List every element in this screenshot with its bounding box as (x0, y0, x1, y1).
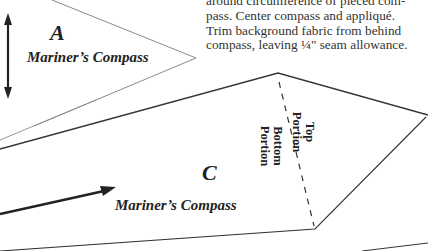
adjacent-piece-edge-bottom (362, 243, 428, 251)
instructions-text: around circumference of pieced com- pass… (206, 0, 428, 53)
instruction-line: compass, leaving ¼" seam allowance. (206, 38, 428, 53)
double-arrow-icon (4, 13, 12, 99)
piece-a-letter: A (50, 20, 65, 46)
instruction-line: pass. Center compass and appliqué. (206, 9, 428, 24)
piece-a-name: Mariner’s Compass (27, 49, 149, 66)
top-portion-label: Top Portion (290, 102, 316, 162)
grain-arrow-icon (0, 186, 116, 214)
piece-c-name: Mariner’s Compass (115, 197, 237, 214)
adjacent-piece-edge (0, 100, 96, 140)
instruction-line: Trim background fabric from behind (206, 24, 428, 39)
piece-c-outline (0, 73, 428, 149)
bottom-portion-label: Bottom Portion (258, 111, 284, 181)
piece-c-letter: C (202, 160, 217, 186)
